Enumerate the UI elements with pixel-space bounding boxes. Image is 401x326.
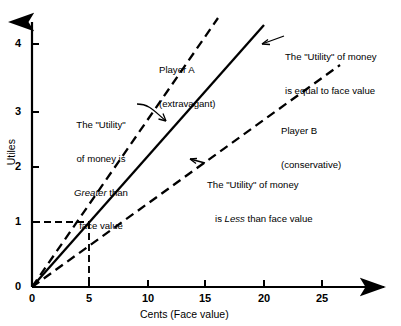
annotation-greater-line2: of money is — [58, 153, 144, 164]
annotation-less-line2: is Less than face value — [207, 213, 313, 224]
annotation-greater-than-face-value: The "Utility" of money is Greater than f… — [58, 96, 144, 254]
x-tick-label-0: 0 — [24, 292, 40, 305]
x-axis-title: Cents (Face value) — [140, 308, 229, 320]
annotation-equal-line2: is equal to face value — [285, 85, 377, 96]
y-tick-label-1: 1 — [10, 215, 26, 228]
leader-equal — [262, 36, 284, 45]
annotation-greater-line4: face value — [58, 220, 144, 231]
annotation-greater-line1: The "Utility" — [58, 119, 144, 130]
annotation-greater-line3-rest: than — [107, 187, 128, 198]
annotation-player-a: Player A (extravagant) — [159, 41, 216, 132]
annotation-less-line2-post: than face value — [245, 213, 313, 224]
x-tick-label-15: 15 — [195, 292, 215, 305]
annotation-equal-line1: The "Utility" of money — [285, 51, 377, 62]
y-tick-label-4: 4 — [10, 37, 26, 50]
annotation-less-emphasis: Less — [225, 213, 245, 224]
x-tick-label-10: 10 — [138, 292, 158, 305]
y-tick-label-2: 2 — [10, 160, 26, 173]
annotation-greater-emphasis: Greater — [74, 187, 107, 198]
annotation-player-a-line1: Player A — [159, 64, 216, 75]
annotation-player-a-line2: (extravagant) — [159, 98, 216, 109]
annotation-equal-to-face-value: The "Utility" of money is equal to face … — [285, 28, 377, 119]
annotation-less-than-face-value: The "Utility" of money is Less than face… — [207, 156, 313, 247]
x-tick-label-5: 5 — [81, 292, 97, 305]
y-tick-label-3: 3 — [10, 105, 26, 118]
leader-less — [190, 159, 205, 164]
x-tick-label-20: 20 — [254, 292, 274, 305]
annotation-player-b-line1: Player B — [281, 125, 341, 136]
utility-of-money-chart: Utiles 0 1 2 3 4 0 5 10 15 20 25 Cents (… — [0, 0, 401, 326]
x-tick-label-25: 25 — [312, 292, 332, 305]
annotation-less-line2-pre: is — [215, 213, 225, 224]
annotation-greater-line3: Greater than — [58, 187, 144, 198]
annotation-less-line1: The "Utility" of money — [207, 179, 313, 190]
